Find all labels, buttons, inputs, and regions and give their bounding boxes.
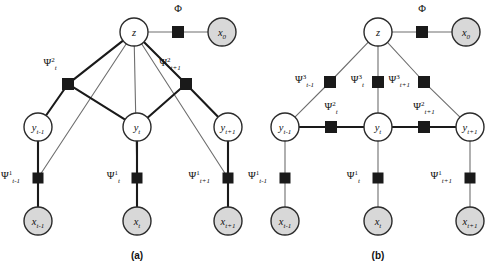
panel-a: ΦΨ2tΨ2t+1Ψ1t-1Ψ1tΨ1t+1zx0yt-1ytyt+1xt-1x…	[1, 3, 242, 261]
factor-label-psi2-tp1: Ψ2t+1	[159, 56, 180, 72]
factor-node-psi1-t	[132, 173, 142, 183]
factor-label-psi1-tp1: Ψ1t+1	[431, 169, 452, 185]
variable-node-xtp1	[214, 207, 242, 235]
factor-graph-svg: ΦΨ2tΨ2t+1Ψ1t-1Ψ1tΨ1t+1zx0yt-1ytyt+1xt-1x…	[0, 0, 499, 270]
panel-b: ΦΨ3t-1Ψ3tΨ3t+1Ψ2tΨ2t+1Ψ1t-1Ψ1tΨ1t+1zx0yt…	[248, 3, 484, 261]
factor-node-psi2-t	[326, 122, 337, 133]
edge-psi2-t-yt	[74, 87, 126, 119]
factor-node-psi2-tp1	[181, 79, 192, 90]
variable-label-z: z	[131, 27, 136, 38]
factor-node-psi1-tm1	[280, 173, 290, 183]
variable-node-ytm1	[271, 113, 299, 141]
factor-label-psi2-t: Ψ2t	[43, 56, 57, 72]
factor-node-psi3-tm1	[325, 77, 336, 88]
edge-psi3-tm1-ytm1	[295, 88, 325, 118]
factor-node-psi1-tp1	[465, 173, 475, 183]
factor-label-psi1-t: Ψ1t	[347, 169, 361, 185]
panel-caption-b: (b)	[372, 250, 385, 261]
factor-label-psi3-tp1: Ψ3t+1	[389, 73, 410, 89]
factor-node-psi2-tp1	[419, 122, 430, 133]
factor-label-psi2-t: Ψ2t	[324, 100, 338, 116]
figure-canvas: ΦΨ2tΨ2t+1Ψ1t-1Ψ1tΨ1t+1zx0yt-1ytyt+1xt-1x…	[0, 0, 499, 270]
factor-node-psi1-tp1	[223, 173, 233, 183]
factor-label-phi: Φ	[174, 3, 182, 14]
edge-z-psi3-tp1	[387, 42, 418, 76]
factor-label-phi: Φ	[418, 3, 426, 14]
edge-z-psi3-tm1	[335, 42, 368, 76]
factor-label-psi1-t: Ψ1t	[107, 169, 121, 185]
factor-label-psi3-tm1: Ψ3t-1	[295, 73, 314, 89]
edge-psi2-t-ytm1	[46, 90, 64, 116]
factor-label-psi1-tm1: Ψ1t-1	[248, 169, 267, 185]
panel-caption-a: (a)	[131, 250, 143, 261]
variable-label-z: z	[375, 27, 380, 38]
factor-label-psi2-tp1: Ψ2t+1	[413, 100, 434, 116]
variable-node-ytp1	[214, 113, 242, 141]
factor-node-phi	[417, 27, 428, 38]
variable-node-xtm1	[24, 207, 52, 235]
variable-node-xtm1	[271, 207, 299, 235]
edge-z-psi1-tp1	[142, 44, 225, 173]
factor-label-psi1-tp1: Ψ1t+1	[189, 169, 210, 185]
variable-node-ytm1	[24, 113, 52, 141]
factor-node-psi2-t	[63, 79, 74, 90]
edge-psi2-tp1-yt	[148, 89, 181, 118]
factor-label-psi3-t: Ψ3t	[351, 73, 365, 89]
factor-node-psi3-t	[373, 77, 384, 88]
variable-node-ytp1	[456, 113, 484, 141]
factor-node-psi1-tm1	[33, 173, 43, 183]
edge-psi2-tp1-ytp1	[191, 90, 218, 117]
factor-node-phi	[173, 27, 184, 38]
variable-node-xtp1	[456, 207, 484, 235]
factor-node-psi1-t	[373, 173, 383, 183]
factor-label-psi1-tm1: Ψ1t-1	[1, 169, 20, 185]
factor-node-psi3-tp1	[419, 77, 430, 88]
